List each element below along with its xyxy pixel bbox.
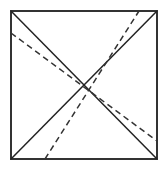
geometry-diagram [0, 0, 168, 173]
figure-container: Square with two solid diagonals and two … [0, 0, 168, 173]
